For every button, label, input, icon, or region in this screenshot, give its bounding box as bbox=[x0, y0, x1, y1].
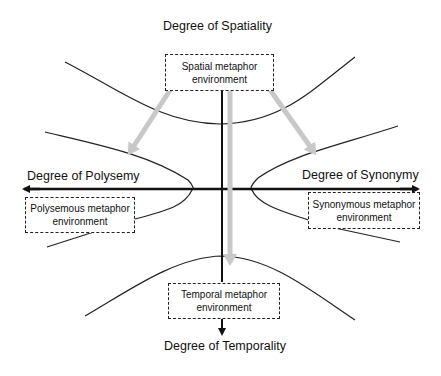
axis-label-polysemy: Degree of Polysemy bbox=[27, 169, 140, 183]
polysemous-env-line1: Polysemous metaphor bbox=[30, 202, 130, 215]
spatial-environment-box: Spatial metaphor environment bbox=[165, 54, 274, 91]
right-curve-lower bbox=[252, 190, 308, 220]
polysemous-env-line2: environment bbox=[52, 215, 107, 228]
spatial-to-polysemous-arrow bbox=[130, 87, 172, 152]
temporal-env-line2: environment bbox=[196, 301, 251, 314]
temporal-environment-box: Temporal metaphor environment bbox=[168, 283, 280, 319]
right-curve-tail bbox=[335, 228, 400, 242]
temporal-env-line1: Temporal metaphor bbox=[181, 288, 267, 301]
axis-label-synonymy: Degree of Synonymy bbox=[302, 168, 419, 182]
spatial-to-synonymous-arrow bbox=[268, 87, 314, 152]
spatial-env-line2: environment bbox=[192, 73, 247, 86]
synonymous-env-line1: Synonymous metaphor bbox=[313, 198, 416, 211]
spatial-env-line1: Spatial metaphor bbox=[182, 60, 258, 73]
left-curve-lower bbox=[135, 190, 192, 219]
synonymous-environment-box: Synonymous metaphor environment bbox=[308, 192, 420, 229]
polysemous-environment-box: Polysemous metaphor environment bbox=[25, 197, 135, 233]
synonymous-env-line2: environment bbox=[336, 211, 391, 224]
axis-label-spatiality: Degree of Spatiality bbox=[163, 19, 272, 33]
axis-label-temporality: Degree of Temporality bbox=[164, 339, 286, 353]
